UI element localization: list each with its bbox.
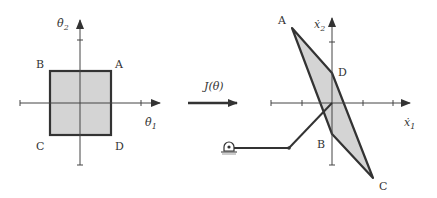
right-y-axis-label: ẋ2	[314, 18, 325, 33]
left-x-axis-label: θ̇1	[145, 116, 157, 131]
left-corner-c: C	[36, 140, 44, 153]
left-corner-a: A	[114, 58, 124, 71]
right-corner-a: A	[277, 14, 287, 27]
diagram-canvas: θ̇1 θ̇2 A B C D J(θ) ẋ1 ẋ2 A D B C	[0, 0, 437, 198]
right-corner-d: D	[338, 66, 347, 79]
left-corner-b: B	[36, 58, 44, 71]
robot-arm	[221, 103, 332, 154]
base-pivot-icon	[221, 142, 237, 154]
arm-link-2	[289, 103, 332, 148]
left-corner-d: D	[115, 140, 124, 153]
right-x-axis-label: ẋ1	[404, 116, 415, 131]
right-corner-b: B	[317, 138, 325, 151]
left-y-axis-label: θ̇2	[57, 17, 69, 32]
right-corner-c: C	[379, 180, 387, 193]
right-panel: ẋ1 ẋ2 A D B C	[221, 14, 415, 193]
jacobian-mapping: J(θ)	[188, 80, 237, 103]
elbow-joint-icon	[287, 146, 291, 150]
mapping-label: J(θ)	[202, 80, 224, 93]
left-panel: θ̇1 θ̇2 A B C D	[20, 17, 160, 165]
